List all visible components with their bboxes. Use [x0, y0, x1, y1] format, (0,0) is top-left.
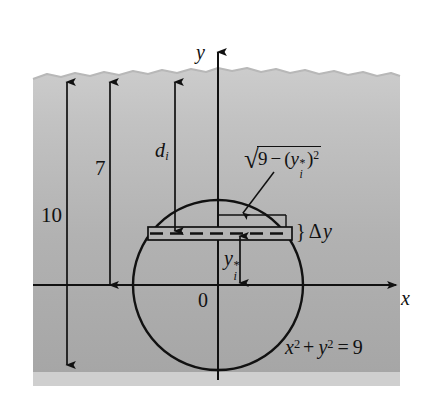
radicand-exponent: 2 — [313, 148, 319, 161]
eq-plus: + — [303, 336, 314, 358]
strip-center-height-label: y*i — [224, 248, 233, 268]
radicand-variable: y — [291, 148, 299, 169]
circle-equation-label: x2+y2=9 — [285, 337, 363, 357]
y-axis-label: y — [196, 42, 205, 62]
delta-symbol: Δ — [309, 220, 322, 242]
yi-star-subscript: i — [233, 270, 236, 282]
delta-y-brace: } — [296, 220, 306, 242]
eq-y: y — [318, 336, 327, 358]
water-region — [33, 68, 400, 372]
dimension-10-label: 10 — [41, 205, 62, 226]
radicand-subscript: i — [300, 169, 303, 181]
eq-value: 9 — [353, 336, 363, 358]
water-fill — [33, 68, 400, 372]
eq-x-exponent: 2 — [294, 337, 300, 351]
depth-to-strip-label: di — [155, 140, 169, 163]
eq-x: x — [285, 336, 294, 358]
representative-strip — [148, 227, 292, 240]
eq-equals: = — [337, 336, 348, 358]
x-axis-label: x — [401, 288, 410, 308]
delta-y-label: }Δy — [296, 221, 332, 241]
eq-y-exponent: 2 — [327, 337, 333, 351]
di-base: d — [155, 139, 165, 161]
seabed-band — [33, 372, 400, 386]
origin-label: 0 — [198, 290, 208, 310]
dimension-7-label: 7 — [95, 158, 106, 179]
radicand: 9−(y*i)2 — [257, 146, 321, 167]
radicand-number: 9 — [258, 148, 268, 169]
sqrt-construct: √9−(y*i)2 — [244, 146, 321, 173]
hydrostatic-force-figure: y x 0 10 7 di y*i }Δy √9−(y*i)2 x2+y2=9 — [0, 0, 423, 398]
di-subscript: i — [165, 149, 168, 163]
radicand-minus: − — [271, 148, 282, 169]
yi-star-base: y — [224, 247, 233, 269]
delta-y-variable: y — [323, 220, 332, 242]
half-width-label: √9−(y*i)2 — [244, 146, 321, 173]
